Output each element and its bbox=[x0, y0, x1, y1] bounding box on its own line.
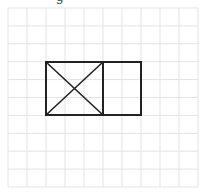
diagram-canvas: g bbox=[0, 0, 200, 196]
grid-figure-svg bbox=[0, 0, 200, 196]
rectangle-figure bbox=[46, 62, 141, 115]
clipped-caption: g bbox=[56, 0, 64, 3]
